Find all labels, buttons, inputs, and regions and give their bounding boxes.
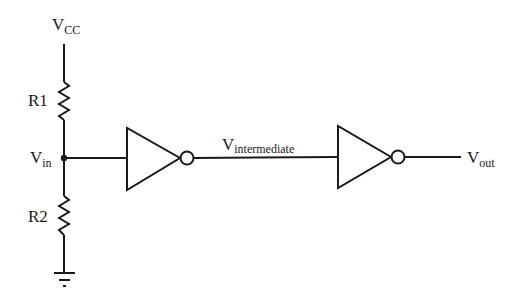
- r2-label: R2: [28, 207, 48, 226]
- r1-resistor: [59, 82, 69, 120]
- circuit-diagram: VCC R1 Vin R2 Vintermediate Vout: [0, 0, 522, 304]
- intermediate-wire: [194, 157, 339, 158]
- inverter-1-triangle: [127, 128, 180, 190]
- inverter-2-triangle: [338, 126, 391, 188]
- vin-label: Vin: [30, 148, 52, 170]
- r2-resistor: [59, 196, 69, 235]
- inverter-2-bubble: [392, 151, 405, 164]
- vin-junction-dot: [61, 155, 67, 161]
- vintermediate-label: Vintermediate: [222, 135, 294, 156]
- inverter-1: [127, 128, 194, 190]
- inverter-1-bubble: [181, 152, 194, 165]
- inverter-2: [338, 126, 405, 188]
- ground-icon: [54, 273, 75, 286]
- vcc-label: VCC: [52, 15, 80, 37]
- r1-label: R1: [28, 91, 48, 110]
- vout-label: Vout: [467, 148, 495, 170]
